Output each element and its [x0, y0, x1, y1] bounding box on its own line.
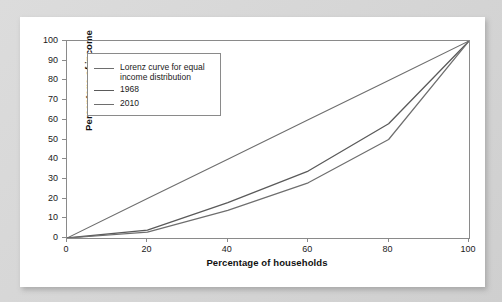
legend-entry: Lorenz curve for equal income distributi…	[94, 63, 205, 82]
legend-line-swatch	[94, 90, 114, 91]
y-tick-label: 0	[32, 233, 58, 242]
figure-canvas: Percentage of income Percentage of house…	[0, 0, 502, 302]
legend-line-swatch	[94, 104, 114, 105]
y-tick-label: 90	[32, 55, 58, 64]
legend-label: 1968	[120, 85, 139, 95]
x-tick-label: 80	[373, 245, 403, 254]
y-tick-label: 40	[32, 154, 58, 163]
y-tick-label: 10	[32, 213, 58, 222]
legend-entry: 1968	[94, 85, 139, 95]
chart-legend: Lorenz curve for equal income distributi…	[87, 53, 221, 116]
legend-label: Lorenz curve for equal income distributi…	[120, 63, 205, 82]
chart-card: Percentage of income Percentage of house…	[20, 17, 485, 287]
x-tick-label: 40	[212, 245, 242, 254]
y-tick-label: 50	[32, 134, 58, 143]
legend-label: 2010	[120, 99, 139, 109]
x-tick-label: 0	[51, 245, 81, 254]
x-tick-label: 20	[131, 245, 161, 254]
y-tick-label: 70	[32, 95, 58, 104]
y-tick-label: 30	[32, 173, 58, 182]
legend-line-swatch	[94, 68, 114, 69]
x-axis-title: Percentage of households	[66, 257, 468, 268]
y-tick-label: 100	[32, 36, 58, 45]
x-tick-label: 100	[453, 245, 483, 254]
plot-area: Lorenz curve for equal income distributi…	[66, 40, 470, 239]
legend-entry: 2010	[94, 99, 139, 109]
y-tick-label: 20	[32, 193, 58, 202]
y-tick-label: 60	[32, 114, 58, 123]
x-tick-label: 60	[292, 245, 322, 254]
y-tick-label: 80	[32, 75, 58, 84]
